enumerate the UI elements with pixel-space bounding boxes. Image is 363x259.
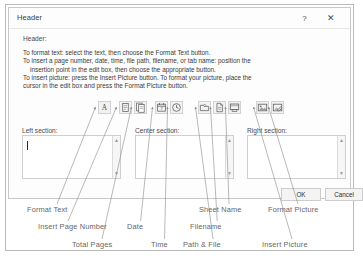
picture-icon: [257, 102, 268, 113]
insert-path-file-button[interactable]: [198, 101, 211, 114]
instruction-line: To format text: select the text, then ch…: [23, 49, 343, 57]
insert-picture-button[interactable]: [256, 101, 269, 114]
annotation-label-total-pages: Total Pages: [72, 240, 112, 249]
insert-page-number-button[interactable]: [119, 101, 132, 114]
center-section-scrollbar[interactable]: ▲ ▼: [225, 136, 233, 178]
calendar-icon: 7: [156, 102, 167, 113]
scroll-up-icon[interactable]: ▲: [226, 137, 233, 144]
header-group-label: Header:: [23, 35, 46, 42]
format-picture-button[interactable]: [271, 101, 284, 114]
folder-path-icon: [199, 102, 210, 113]
ok-button[interactable]: OK: [281, 188, 321, 201]
annotation-label-insert-picture: Insert Picture: [262, 240, 308, 249]
dialog-title: Header: [17, 13, 42, 22]
annotation-label-insert-page-number: Insert Page Number: [38, 222, 107, 231]
instruction-line: To insert picture: press the Insert Pict…: [23, 74, 343, 82]
insert-total-pages-button[interactable]: [134, 101, 147, 114]
insert-date-button[interactable]: 7: [155, 101, 168, 114]
annotation-label-format-text: Format Text: [27, 205, 68, 214]
format-text-icon: A: [99, 102, 110, 113]
header-dialog: Header ? ✕ Header: To format text: selec…: [8, 7, 351, 199]
left-section-input[interactable]: ▲ ▼: [22, 135, 121, 179]
scroll-down-icon[interactable]: ▼: [338, 170, 345, 177]
total-pages-icon: [135, 102, 146, 113]
format-picture-icon: [272, 102, 283, 113]
insert-time-button[interactable]: [170, 101, 183, 114]
sheet-tab-icon: [229, 102, 240, 113]
dialog-titlebar: Header ? ✕: [9, 8, 350, 29]
help-icon[interactable]: ?: [297, 11, 312, 26]
right-section-label: Right section:: [247, 127, 287, 134]
scroll-up-icon[interactable]: ▲: [113, 137, 120, 144]
text-caret: [27, 141, 28, 150]
left-section-scrollbar[interactable]: ▲ ▼: [112, 136, 120, 178]
page-number-icon: [120, 102, 131, 113]
instruction-line: To insert a page number, date, time, fil…: [23, 57, 343, 65]
annotation-label-path-and-file: Path & File: [183, 240, 221, 249]
annotation-label-date: Date: [127, 222, 143, 231]
format-text-button[interactable]: A: [98, 101, 111, 114]
right-section-scrollbar[interactable]: ▲ ▼: [337, 136, 345, 178]
scroll-up-icon[interactable]: ▲: [338, 137, 345, 144]
scroll-down-icon[interactable]: ▼: [226, 170, 233, 177]
close-icon[interactable]: ✕: [323, 11, 338, 26]
center-section-input[interactable]: ▲ ▼: [135, 135, 234, 179]
scroll-down-icon[interactable]: ▼: [113, 170, 120, 177]
file-icon: [214, 102, 225, 113]
center-section-label: Center section:: [135, 127, 179, 134]
cancel-button[interactable]: Cancel: [325, 188, 363, 201]
annotation-label-sheet-name: Sheet Name: [199, 205, 242, 214]
insert-sheet-name-button[interactable]: [228, 101, 241, 114]
instruction-line: insertion point in the edit box, then ch…: [23, 66, 343, 74]
svg-text:A: A: [102, 103, 108, 112]
right-section-input[interactable]: ▲ ▼: [247, 135, 346, 179]
svg-text:7: 7: [160, 107, 162, 111]
instructions-text: To format text: select the text, then ch…: [23, 49, 343, 90]
clock-icon: [171, 102, 182, 113]
instruction-line: cursor in the edit box and press the For…: [23, 82, 343, 90]
left-section-label: Left section:: [22, 127, 58, 134]
annotation-label-time: Time: [151, 240, 168, 249]
annotation-label-format-picture: Format Picture: [268, 205, 319, 214]
annotation-label-filename: Filename: [190, 222, 222, 231]
insert-filename-button[interactable]: [213, 101, 226, 114]
